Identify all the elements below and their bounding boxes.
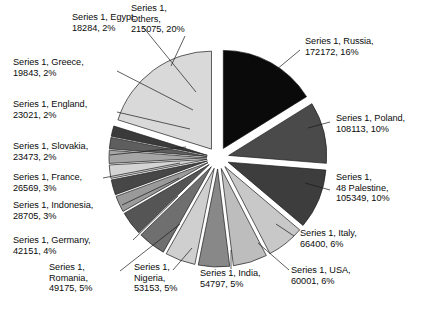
slice-label-romania: Series 1, Romania, 49175, 5% xyxy=(49,262,124,294)
slice-label-indonesia: Series 1, Indonesia, 28705, 3% xyxy=(13,200,128,221)
slice-label-india: Series 1, India, 54797, 5% xyxy=(200,268,294,289)
slice-label-slovakia: Series 1, Slovakia, 23473, 2% xyxy=(13,141,123,162)
slice-label-others: Series 1, Others, 215075, 20% xyxy=(131,3,221,35)
slice-label-russia: Series 1, Russia, 172172, 16% xyxy=(305,36,410,57)
slice-label-poland: Series 1, Poland, 108113, 10% xyxy=(336,113,436,134)
slice-label-italy: Series 1, Italy, 66400, 6% xyxy=(300,228,390,249)
slice-label-nigeria: Series 1, Nigeria, 53153, 5% xyxy=(134,262,204,294)
leader-line-russia xyxy=(276,50,300,70)
slice-label-usa: Series 1, USA, 60001, 6% xyxy=(291,265,381,286)
slice-label-palestine: Series 1, 48 Palestine, 105349, 10% xyxy=(336,172,436,204)
pie-slices-group xyxy=(109,50,327,267)
pie-chart: Series 1, Egypt, 18284, 2% Series 1, Oth… xyxy=(0,0,441,310)
slice-label-greece: Series 1, Greece, 19843, 2% xyxy=(13,57,118,78)
slice-label-england: Series 1, England, 23021, 2% xyxy=(13,99,121,120)
slice-label-france: Series 1, France, 26569, 3% xyxy=(13,172,113,193)
slice-label-germany: Series 1, Germany, 42151, 4% xyxy=(13,235,127,256)
